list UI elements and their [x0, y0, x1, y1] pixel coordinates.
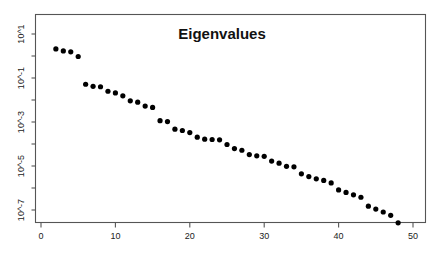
data-point	[321, 178, 326, 183]
data-point	[157, 118, 162, 123]
data-point	[187, 130, 192, 135]
data-point	[180, 128, 185, 133]
data-point	[172, 127, 177, 132]
data-point	[165, 119, 170, 124]
data-point	[247, 152, 252, 157]
data-point	[232, 146, 237, 151]
data-point	[276, 161, 281, 166]
data-point	[143, 103, 148, 108]
x-tick-label: 40	[334, 231, 344, 241]
x-tick-label: 20	[185, 231, 195, 241]
data-point	[373, 206, 378, 211]
data-point	[195, 135, 200, 140]
data-point	[299, 171, 304, 176]
y-tick-label: 10^-1	[16, 67, 26, 89]
data-point	[358, 195, 363, 200]
data-point	[336, 187, 341, 192]
x-tick-label: 0	[38, 231, 43, 241]
data-point	[83, 82, 88, 87]
data-point	[269, 158, 274, 163]
y-tick-label: 10^1	[16, 24, 26, 43]
data-point	[366, 204, 371, 209]
data-point	[68, 49, 73, 54]
data-point	[105, 89, 110, 94]
y-tick-label: 10^-3	[16, 111, 26, 133]
chart-title: Eigenvalues	[178, 25, 266, 42]
data-point	[120, 93, 125, 98]
x-tick-label: 10	[110, 231, 120, 241]
data-point	[98, 84, 103, 89]
y-tick-label: 10^-7	[16, 199, 26, 221]
data-point	[329, 180, 334, 185]
chart-figure: Eigenvalues 10^110^-110^-310^-510^-7 010…	[0, 0, 445, 256]
data-point	[314, 176, 319, 181]
data-point	[128, 98, 133, 103]
x-tick-label: 30	[259, 231, 269, 241]
data-point	[388, 213, 393, 218]
data-point	[76, 54, 81, 59]
data-point	[351, 192, 356, 197]
data-point	[306, 174, 311, 179]
x-tick-label: 50	[408, 231, 418, 241]
data-point	[291, 164, 296, 169]
data-point	[284, 164, 289, 169]
data-point	[135, 100, 140, 105]
data-point	[262, 154, 267, 159]
data-point	[254, 153, 259, 158]
data-point	[210, 137, 215, 142]
data-point	[53, 46, 58, 51]
data-point	[239, 148, 244, 153]
data-point	[396, 220, 401, 225]
data-point	[61, 48, 66, 53]
data-point	[381, 209, 386, 214]
data-point	[150, 105, 155, 110]
data-point	[202, 137, 207, 142]
data-point	[217, 137, 222, 142]
data-point	[113, 90, 118, 95]
y-tick-label: 10^-5	[16, 155, 26, 177]
eigenvalues-scatter-plot: Eigenvalues 10^110^-110^-310^-510^-7 010…	[0, 0, 445, 256]
data-point	[90, 84, 95, 89]
data-point	[343, 190, 348, 195]
data-point	[224, 142, 229, 147]
